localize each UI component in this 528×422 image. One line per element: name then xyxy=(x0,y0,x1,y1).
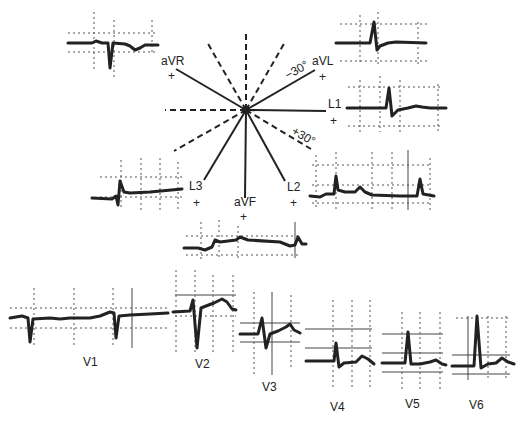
tracing-l3 xyxy=(92,158,182,210)
label-avr: aVR xyxy=(161,55,184,67)
axis-l3 xyxy=(204,110,246,180)
tracing-avl xyxy=(336,12,428,65)
label-v3: V3 xyxy=(262,381,277,393)
plus-avl: + xyxy=(319,71,326,83)
plus-avf: + xyxy=(240,211,247,223)
label-v5: V5 xyxy=(405,398,420,410)
plus-l3: + xyxy=(193,197,200,209)
plus-avr: + xyxy=(168,70,175,82)
tracing-v1 xyxy=(10,288,168,348)
tracing-l1 xyxy=(347,76,446,132)
label-l1: L1 xyxy=(328,98,341,110)
label-v1: V1 xyxy=(83,356,98,368)
axis-avf xyxy=(245,110,246,198)
plus-l1: + xyxy=(330,115,337,127)
tracing-v2 xyxy=(173,270,236,355)
axis-l1 xyxy=(246,110,326,111)
tracing-avr xyxy=(68,12,158,78)
tracing-avf xyxy=(184,220,306,260)
tracing-v3 xyxy=(240,292,300,375)
label-v2: V2 xyxy=(195,358,210,370)
tracing-v5 xyxy=(382,312,446,392)
label-avf: aVF xyxy=(234,196,256,208)
label-l2: L2 xyxy=(287,181,300,193)
ecg-diagram-canvas: .axis { stroke:#222; stroke-width:2; fil… xyxy=(0,0,528,422)
tracing-l2 xyxy=(310,150,434,210)
tracing-v6 xyxy=(452,316,514,380)
tracing-v4 xyxy=(305,300,374,390)
plus-l2: + xyxy=(290,197,297,209)
axis-avr xyxy=(176,69,246,110)
label-avl: aVL xyxy=(312,55,333,67)
label-v4: V4 xyxy=(330,401,345,413)
label-v6: V6 xyxy=(469,399,484,411)
label-l3: L3 xyxy=(189,180,202,192)
